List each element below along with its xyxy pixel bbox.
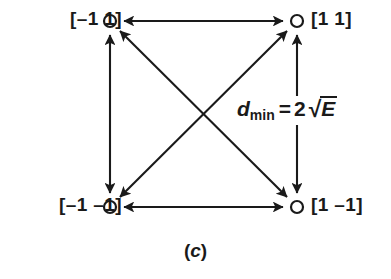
caption-letter: c bbox=[190, 240, 201, 261]
node-label-top-left: [–1 1] bbox=[70, 8, 122, 30]
dmin-subscript: min bbox=[250, 107, 275, 123]
radical-group: √E bbox=[308, 98, 338, 121]
radicand: E bbox=[320, 98, 337, 119]
node-label-top-right: [1 1] bbox=[311, 8, 352, 30]
dmin-equals: = bbox=[279, 97, 291, 120]
node-label-bottom-left: [–1 –1] bbox=[59, 194, 122, 216]
dmin-annotation: dmin=2√E bbox=[236, 96, 338, 125]
figure-caption: (c) bbox=[0, 240, 391, 262]
caption-close-paren: ) bbox=[201, 240, 207, 261]
node-label-bottom-right: [1 –1] bbox=[311, 194, 363, 216]
constellation-figure: [–1 1] [1 1] [–1 –1] [1 –1] dmin=2√E (c) bbox=[0, 0, 391, 279]
node-top-right bbox=[291, 15, 303, 27]
constellation-diagram bbox=[0, 0, 391, 279]
dmin-coefficient: 2 bbox=[294, 97, 306, 120]
node-bottom-right bbox=[291, 201, 303, 213]
dmin-variable: d bbox=[237, 97, 250, 120]
